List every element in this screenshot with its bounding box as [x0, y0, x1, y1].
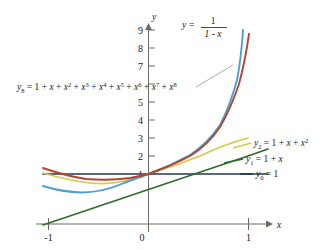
curve-exact-function [43, 34, 249, 180]
y-tick-label-5: 5 [138, 97, 143, 108]
y-tick-label-7: 7 [138, 61, 143, 72]
y-tick-label-3: 3 [138, 133, 143, 144]
leader-line-y8 [196, 65, 233, 87]
leader-line-y1 [224, 159, 243, 163]
svg-text:y2 = 1 + x + x2: y2 = 1 + x + x2 [253, 137, 308, 150]
annotation-y0-constant: y0 = 1 [255, 169, 279, 181]
annotation-exact-denominator: 1 - x [205, 29, 223, 39]
x-tick-label-0: 0 [140, 232, 145, 243]
y-tick-label-2: 2 [138, 151, 143, 162]
annotation-exact-numerator: 1 [211, 16, 216, 26]
y-tick-marks [149, 30, 156, 174]
taylor-series-figure: 1 2 3 4 5 7 8 9 -1 0 1 y x [0, 0, 333, 250]
annotation-exact-lhs: y = [181, 20, 195, 30]
curves-group [43, 30, 268, 225]
annotation-exact-function: y = 1 1 - x [181, 16, 227, 39]
svg-text:y0 = 1: y0 = 1 [255, 169, 279, 181]
x-tick-label-neg1: -1 [44, 232, 52, 243]
annotation-y2-quadratic: y2 = 1 + x + x2 [253, 137, 308, 150]
annotation-y8-polynomial: y8 = 1 + x + x2 + x3 + x4 + x5 + x6 + x7… [16, 81, 177, 94]
y-tick-label-4: 4 [138, 115, 143, 126]
x-tick-label-1: 1 [246, 232, 251, 243]
x-axis-arrow [266, 221, 273, 228]
leader-line-y2 [233, 143, 251, 148]
y-axis-name-label: y [151, 12, 157, 22]
plot-canvas: 1 2 3 4 5 7 8 9 -1 0 1 y x [0, 0, 333, 250]
svg-text:y =: y = [181, 20, 195, 30]
svg-text:y8 = 1 + x + x2 + x3 + x4 + x5: y8 = 1 + x + x2 + x3 + x4 + x5 + x6 + x7… [16, 81, 177, 94]
y-tick-label-8: 8 [138, 43, 143, 54]
axes-group: 1 2 3 4 5 7 8 9 -1 0 1 y x [36, 12, 282, 243]
y-tick-label-9: 9 [138, 25, 143, 36]
y-axis-arrow [145, 23, 152, 30]
x-axis-name-label: x [276, 220, 282, 230]
